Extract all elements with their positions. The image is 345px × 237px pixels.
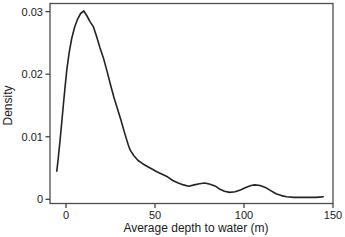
x-axis: 050100150 (63, 204, 342, 222)
density-plot: 050100150 00.010.020.03 Average depth to… (0, 0, 345, 237)
plot-background (50, 4, 333, 204)
y-tick-label: 0.02 (22, 68, 43, 80)
x-tick-label: 100 (235, 209, 253, 221)
x-tick-label: 0 (63, 209, 69, 221)
x-tick-label: 50 (149, 209, 161, 221)
y-tick-label: 0.03 (22, 6, 43, 18)
y-axis-label: Density (1, 85, 15, 125)
y-tick-label: 0 (37, 193, 43, 205)
density-plot-figure: 050100150 00.010.020.03 Average depth to… (0, 0, 345, 237)
y-axis: 00.010.020.03 (22, 6, 50, 206)
y-tick-label: 0.01 (22, 131, 43, 143)
x-tick-label: 150 (324, 209, 342, 221)
x-axis-label: Average depth to water (m) (123, 221, 268, 235)
